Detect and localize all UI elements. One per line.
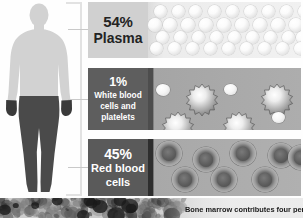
plasma-droplet (280, 5, 293, 18)
bracket-top-cap (66, 2, 81, 4)
rbc-percent: 45% (104, 147, 131, 162)
plasma-panel: 54% Plasma (88, 2, 301, 58)
plasma-droplet (294, 42, 301, 55)
leader-line-plasma (68, 29, 90, 30)
biconcave-erythrocyte (156, 141, 182, 166)
plasma-name: Plasma (93, 31, 142, 47)
blood-composition-diagram: 54% Plasma 1% White blood cells and plat… (0, 0, 303, 218)
wbc-percent: 1% (109, 76, 127, 89)
platelet (272, 112, 285, 123)
white-blood-cells-panel: 1% White blood cells and platelets (88, 68, 301, 130)
wbc-cell-field (148, 68, 301, 130)
plasma-droplet (168, 42, 181, 55)
plasma-droplet (258, 42, 271, 55)
plasma-droplet (186, 42, 199, 55)
wbc-name-line1: White blood (94, 91, 141, 100)
bracket-bottom-cap (66, 194, 81, 196)
plasma-droplet (222, 42, 235, 55)
spiky-leukocyte (221, 110, 257, 130)
plasma-droplet (172, 5, 185, 18)
wbc-name-line2: cells and (100, 102, 136, 111)
plasma-droplet (253, 18, 267, 32)
plasma-droplet (276, 42, 289, 55)
plasma-droplet (189, 5, 202, 18)
plasma-droplet (235, 18, 249, 32)
plasma-droplet (262, 5, 275, 18)
plasma-droplet (298, 5, 301, 18)
biconcave-erythrocyte (172, 167, 198, 192)
plasma-droplet (181, 18, 195, 32)
spiky-leukocyte (160, 110, 196, 130)
plasma-cell-field (148, 2, 301, 58)
plasma-droplet (154, 5, 167, 18)
leader-line-wbc (68, 99, 90, 100)
biconcave-erythrocyte (193, 147, 219, 172)
plasma-droplet (271, 18, 285, 32)
plasma-label: 54% Plasma (88, 2, 148, 58)
plasma-droplet (244, 5, 257, 18)
footer-caption: Bone marrow contributes four per (185, 206, 303, 213)
plasma-droplet (148, 18, 162, 32)
plasma-percent: 54% (103, 14, 132, 30)
biconcave-erythrocyte (230, 141, 256, 166)
red-blood-cells-panel: 45% Red blood cells (88, 139, 301, 196)
plasma-droplet (150, 42, 163, 55)
plasma-droplet (204, 42, 217, 55)
platelet (156, 84, 170, 96)
plasma-droplet (240, 42, 253, 55)
plasma-droplet (163, 18, 177, 32)
wbc-label: 1% White blood cells and platelets (88, 68, 148, 130)
wbc-name-line3: platelets (101, 113, 135, 122)
biconcave-erythrocyte (252, 167, 278, 192)
leader-line-rbc (68, 167, 90, 168)
plasma-droplet (289, 18, 301, 32)
rbc-label: 45% Red blood cells (88, 139, 148, 196)
rbc-name-line2: cells (106, 176, 130, 189)
platelet (224, 84, 237, 95)
plasma-droplet (208, 5, 221, 18)
rbc-cell-field (148, 139, 301, 196)
plasma-droplet (199, 18, 213, 32)
biconcave-erythrocyte (288, 145, 301, 170)
biconcave-erythrocyte (211, 167, 237, 192)
plasma-droplet (217, 18, 231, 32)
plasma-droplet (226, 5, 239, 18)
rbc-name-line1: Red blood (91, 162, 145, 175)
